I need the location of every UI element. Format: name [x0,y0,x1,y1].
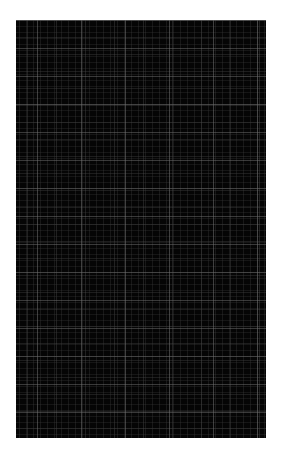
dark-grid-panel [16,20,266,438]
canvas [0,0,282,463]
